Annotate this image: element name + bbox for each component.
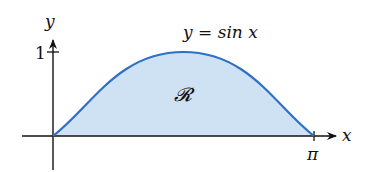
y-axis-label: y (44, 11, 55, 31)
curve-label: y = sin x (182, 22, 258, 42)
x-axis-label: x (342, 125, 352, 145)
sine-area-diagram: y 1 y = sin x 𝓡 x π (0, 0, 374, 172)
region-label: 𝓡 (174, 83, 195, 105)
y-tick-label: 1 (35, 43, 46, 63)
x-tick-label: π (306, 144, 319, 164)
